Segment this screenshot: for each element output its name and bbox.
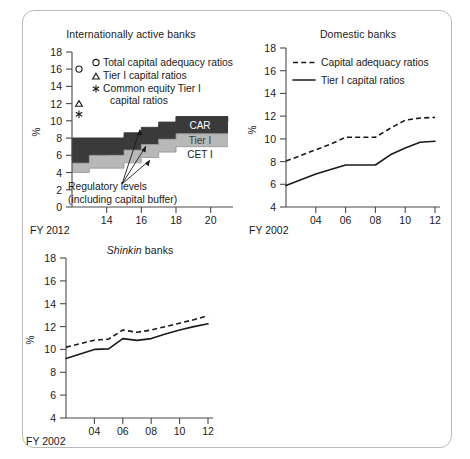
ytick-14: 14 xyxy=(264,87,276,99)
series-label-tier1: Tier I xyxy=(189,135,211,146)
legend-label-ceti-line1: Common equity Tier I xyxy=(103,83,201,94)
ytick-18: 18 xyxy=(264,42,276,54)
ytick-18: 18 xyxy=(50,46,62,58)
panel-title-shinkin-italic: Shinkin xyxy=(107,244,142,256)
xaxis-ticks-panel2 xyxy=(316,207,435,213)
legend-label-total-car: Total capital adequacy ratios xyxy=(103,57,233,68)
ytick-10: 10 xyxy=(44,343,56,355)
panel-title-internationally-active-banks: Internationally active banks xyxy=(36,28,226,40)
legend-panel2: Capital adequacy ratios Tier I capital r… xyxy=(293,57,429,86)
ytick-8: 8 xyxy=(270,156,276,168)
legend-panel1: Total capital adequacy ratios Tier I cap… xyxy=(93,57,233,106)
series-line-tier1-capital-ratios-shinkin xyxy=(66,324,208,359)
xaxis-labels-panel2: 04 06 08 10 12 xyxy=(310,214,441,226)
figure-capital-adequacy-ratios: Internationally active banks xyxy=(0,0,470,459)
panel-title-shinkin-banks: Shinkin banks xyxy=(60,244,220,256)
yaxis-labels-panel3: 4 6 8 10 12 14 16 18 xyxy=(44,252,56,424)
legend-label-tier1: Tier I capital ratios xyxy=(103,70,187,81)
legend-label-ceti-line2: capital ratios xyxy=(110,95,168,106)
xtick-10: 10 xyxy=(399,214,411,226)
xtick-04: 04 xyxy=(310,214,322,226)
xaxis-ticks-panel1 xyxy=(107,207,211,213)
xtick-06: 06 xyxy=(117,425,129,437)
xtick-16: 16 xyxy=(135,214,147,226)
xaxis-labels-panel1: 14 16 18 20 xyxy=(101,214,217,226)
xtick-12: 12 xyxy=(429,214,441,226)
chart-shinkin-banks: 4 6 8 10 12 14 16 18 % 04 06 08 xyxy=(0,232,250,459)
ytick-16: 16 xyxy=(44,275,56,287)
ytick-6: 6 xyxy=(50,389,56,401)
series-label-car: CAR xyxy=(189,120,210,131)
ytick-16: 16 xyxy=(50,63,62,75)
xtick-04: 04 xyxy=(89,425,101,437)
legend-label-tier1-capital-ratios: Tier I capital ratios xyxy=(321,75,405,86)
legend-circle-icon xyxy=(93,59,99,65)
ytick-2: 2 xyxy=(56,184,62,196)
xtick-14: 14 xyxy=(101,214,113,226)
xaxis-origin-label-panel3: FY 2002 xyxy=(26,435,66,447)
ytick-10: 10 xyxy=(264,133,276,145)
ytick-4: 4 xyxy=(56,167,62,179)
ytick-12: 12 xyxy=(44,321,56,333)
panel-domestic-banks: Domestic banks 4 6 8 10 12 14 xyxy=(243,0,470,248)
xtick-20: 20 xyxy=(205,214,217,226)
ytick-8: 8 xyxy=(50,366,56,378)
xtick-06: 06 xyxy=(340,214,352,226)
ytick-8: 8 xyxy=(56,132,62,144)
axis-marker-asterisk xyxy=(76,111,82,119)
panel-internationally-active-banks: Internationally active banks xyxy=(0,0,250,240)
legend-asterisk-icon xyxy=(93,85,99,93)
ytick-18: 18 xyxy=(44,252,56,264)
ytick-14: 14 xyxy=(50,80,62,92)
xaxis-labels-panel3: 04 06 08 10 12 xyxy=(89,425,214,437)
ytick-10: 10 xyxy=(50,115,62,127)
xtick-18: 18 xyxy=(170,214,182,226)
yaxis-labels-panel1: 0 2 4 6 8 10 12 14 16 18 xyxy=(50,46,62,213)
ytick-14: 14 xyxy=(44,298,56,310)
yaxis-label-panel3: % xyxy=(25,335,36,344)
yaxis-label-panel1: % xyxy=(31,127,42,136)
panel-title-shinkin-rest: banks xyxy=(142,244,174,256)
panel-title-domestic-banks: Domestic banks xyxy=(273,28,443,40)
panel-shinkin-banks: Shinkin banks 4 6 8 10 12 xyxy=(0,232,250,459)
xtick-12: 12 xyxy=(202,425,214,437)
series-label-ceti: CET I xyxy=(187,149,212,160)
ytick-6: 6 xyxy=(56,149,62,161)
ytick-4: 4 xyxy=(270,201,276,213)
legend-label-capital-adequacy-ratios: Capital adequacy ratios xyxy=(321,57,429,68)
yaxis-ticks-panel2 xyxy=(280,48,286,207)
annotation-regulatory-levels-line2: (including capital buffer) xyxy=(68,194,177,205)
xaxis-origin-label-panel2: FY 2002 xyxy=(249,224,289,236)
series-line-capital-adequacy-ratios-shinkin xyxy=(66,316,208,347)
yaxis-ticks-panel3 xyxy=(60,258,66,418)
axis-marker-circle xyxy=(76,66,82,72)
xtick-10: 10 xyxy=(174,425,186,437)
annotation-regulatory-levels-line1: Regulatory levels xyxy=(68,181,147,192)
ytick-12: 12 xyxy=(264,110,276,122)
yaxis-labels-panel2: 4 6 8 10 12 14 16 18 xyxy=(264,42,276,213)
xaxis-ticks-panel3 xyxy=(94,418,208,424)
xtick-08: 08 xyxy=(370,214,382,226)
ytick-6: 6 xyxy=(270,178,276,190)
legend-triangle-icon xyxy=(93,73,100,79)
ytick-12: 12 xyxy=(50,98,62,110)
xtick-08: 08 xyxy=(145,425,157,437)
yaxis-label-panel2: % xyxy=(247,125,258,134)
ytick-0: 0 xyxy=(56,201,62,213)
series-line-tier1-capital-ratios xyxy=(286,141,435,185)
ytick-4: 4 xyxy=(50,412,56,424)
axis-marker-triangle xyxy=(76,101,83,107)
ytick-16: 16 xyxy=(264,65,276,77)
series-line-capital-adequacy-ratios xyxy=(286,117,435,161)
